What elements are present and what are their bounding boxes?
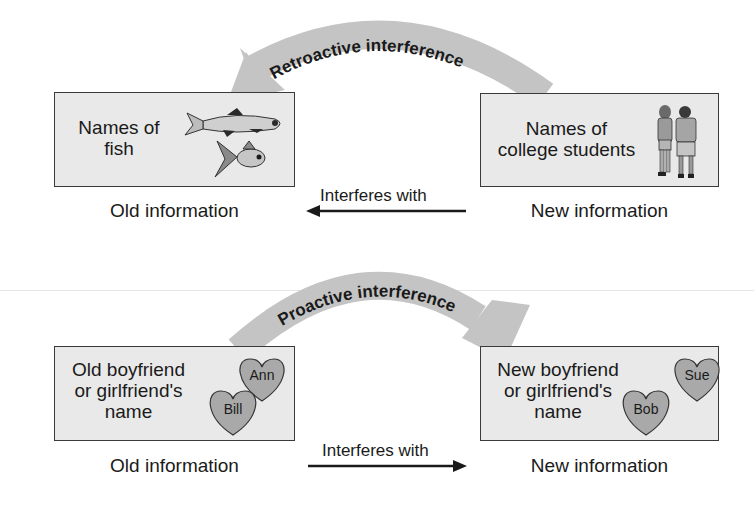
new-information-box-partner: New boyfriend or girlfriend's name Sue B… [480,346,719,441]
old-information-caption: Old information [54,455,295,477]
svg-text:Ann: Ann [250,367,275,383]
box-label-line: or girlfriend's [61,380,196,401]
new-information-caption: New information [480,455,719,477]
box-label-line: Names of [69,117,169,138]
box-label-line: Old boyfriend [61,359,196,380]
hearts-illustration: Sue Bob [621,353,721,439]
box-label: Names of college students [489,118,644,160]
box-label-line: name [483,401,633,422]
new-information-caption: New information [480,200,719,222]
svg-text:Sue: Sue [685,367,710,383]
box-label-line: Names of [489,118,644,139]
students-icon [649,102,709,182]
heart-icon-sue: Sue [675,359,719,401]
box-label-line: or girlfriend's [483,380,633,401]
box-label-line: fish [69,138,169,159]
heart-icon-bill: Bill [210,391,256,435]
interferes-with-label-top: Interferes with [320,186,427,206]
hearts-illustration: Ann Bill [195,353,295,439]
new-information-box-students: Names of college students [480,93,719,187]
box-label-line: New boyfriend [483,359,633,380]
svg-text:Bill: Bill [224,401,243,417]
box-label: Old boyfriend or girlfriend's name [61,359,196,422]
svg-text:Bob: Bob [634,401,659,417]
old-information-caption: Old information [54,200,295,222]
old-information-box-partner: Old boyfriend or girlfriend's name Ann B… [54,346,295,441]
box-label-line: name [61,401,196,422]
interferes-with-label-bottom: Interferes with [322,441,429,461]
old-information-box-fish: Names of fish [54,92,295,187]
heart-icon-bob: Bob [623,391,669,435]
box-label-line: college students [489,139,644,160]
fish-icon [165,103,290,183]
interference-diagram: Names of fish Old information Names of c… [0,0,754,510]
box-label: Names of fish [69,117,169,159]
box-label: New boyfriend or girlfriend's name [483,359,633,422]
